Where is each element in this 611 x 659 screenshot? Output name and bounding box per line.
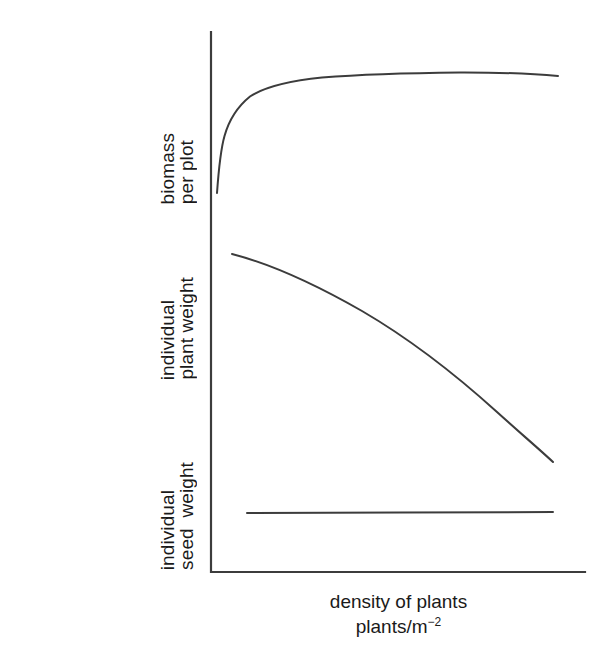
x-axis-label-units: plants/m — [356, 616, 428, 637]
curve-individual-plant-weight — [232, 254, 553, 462]
y-axis-label-seed-line2: seed weight — [177, 462, 196, 570]
plot-canvas — [0, 0, 611, 659]
y-axis-label-plant-line1: individual — [158, 300, 177, 380]
density-response-figure: biomass per plot individual plant weight… — [0, 0, 611, 659]
x-axis-label-line2: plants/m−2 — [211, 614, 586, 639]
y-axis-label-plant-line2: plant weight — [177, 277, 196, 380]
curve-biomass-per-plot — [217, 72, 558, 193]
y-axis-label-biomass-line1: biomass — [158, 133, 177, 204]
axis-lines — [211, 32, 585, 572]
y-axis-label-individual-seed-weight: individual seed weight — [158, 428, 198, 570]
y-axis-label-biomass-per-plot: biomass per plot — [158, 96, 198, 204]
y-axis-label-individual-plant-weight: individual plant weight — [158, 242, 198, 380]
x-axis-label-exponent: −2 — [428, 615, 442, 629]
curve-individual-seed-weight — [247, 512, 553, 513]
y-axis-label-seed-line1: individual — [158, 490, 177, 570]
x-axis-label-line1: density of plants — [211, 589, 586, 614]
x-axis-label: density of plants plants/m−2 — [211, 589, 586, 639]
y-axis-label-biomass-line2: per plot — [177, 140, 196, 204]
